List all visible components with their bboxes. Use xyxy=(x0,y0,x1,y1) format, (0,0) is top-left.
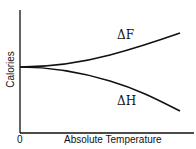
origin-tick-label: 0 xyxy=(17,134,23,145)
curve-delta-h xyxy=(20,67,180,111)
curve-delta-f xyxy=(20,33,180,67)
delta-f-label: ΔF xyxy=(117,28,134,42)
delta-h-label: ΔH xyxy=(117,94,136,108)
x-axis-label: Absolute Temperature xyxy=(64,134,162,145)
y-axis-label: Calories xyxy=(5,48,16,92)
chart-plot xyxy=(0,0,196,149)
